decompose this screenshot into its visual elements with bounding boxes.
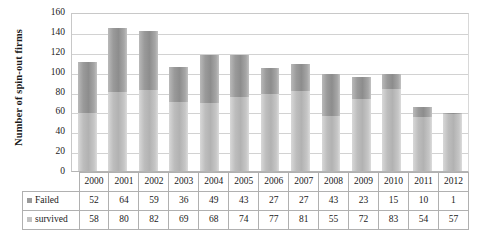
bar-slot xyxy=(438,14,468,171)
table-cell-value: 36 xyxy=(169,192,199,211)
table-header-year: 2004 xyxy=(199,173,229,192)
bar-stack xyxy=(443,113,462,171)
y-tick-label: 40 xyxy=(56,128,66,138)
legend-swatch-icon xyxy=(27,198,32,203)
table-cell-value: 68 xyxy=(199,211,229,230)
bar-segment-survived xyxy=(78,113,97,171)
table-cell-value: 83 xyxy=(379,211,409,230)
y-tick-label: 80 xyxy=(56,88,66,98)
table-header-year: 2000 xyxy=(79,173,109,192)
bar-segment-survived xyxy=(261,94,280,171)
bar-segment-survived xyxy=(382,89,401,171)
bar-stack xyxy=(352,77,371,171)
table-header-year: 2008 xyxy=(319,173,349,192)
bar-segment-failed xyxy=(200,55,219,104)
bar-segment-failed xyxy=(352,77,371,100)
table-header-year: 2001 xyxy=(109,173,139,192)
data-table-body: 2000200120022003200420052006200720082009… xyxy=(23,173,469,230)
y-axis-title: Number of spin-out firms xyxy=(0,0,36,175)
bar-segment-failed xyxy=(413,107,432,117)
bar-stack xyxy=(413,107,432,171)
bar-slot xyxy=(316,14,346,171)
bar-slot xyxy=(224,14,254,171)
table-cell-value: 43 xyxy=(319,192,349,211)
table-cell-value: 58 xyxy=(79,211,109,230)
bar-slot xyxy=(377,14,407,171)
table-header-year: 2012 xyxy=(438,173,468,192)
table-header-year: 2003 xyxy=(169,173,199,192)
table-cell-value: 27 xyxy=(259,192,289,211)
bar-slot xyxy=(346,14,376,171)
bar-segment-survived xyxy=(413,117,432,171)
bar-slot xyxy=(255,14,285,171)
bar-segment-failed xyxy=(169,67,188,103)
bar-slot xyxy=(407,14,437,171)
table-row-years: 2000200120022003200420052006200720082009… xyxy=(23,173,469,192)
bar-segment-failed xyxy=(230,55,249,98)
bar-slot xyxy=(102,14,132,171)
y-axis-tick-labels: 160140120100806040200 xyxy=(34,8,68,174)
table-cell-value: 10 xyxy=(408,192,438,211)
bar-segment-failed xyxy=(322,74,341,117)
y-tick-label: 120 xyxy=(51,48,65,58)
bar-segment-failed xyxy=(78,62,97,114)
y-tick-label: 160 xyxy=(51,8,65,18)
legend-swatch-icon xyxy=(27,217,32,222)
table-row-label: Failed xyxy=(23,192,80,211)
table-cell-value: 55 xyxy=(319,211,349,230)
bar-slot xyxy=(133,14,163,171)
plot-area xyxy=(71,13,469,172)
table-cell-value: 15 xyxy=(379,192,409,211)
bar-stack xyxy=(261,68,280,171)
bar-stack xyxy=(139,31,158,171)
bar-stack xyxy=(108,28,127,171)
y-tick-label: 20 xyxy=(56,147,66,157)
bar-stack xyxy=(322,74,341,171)
table-cell-value: 64 xyxy=(109,192,139,211)
bar-stack xyxy=(200,55,219,171)
table-cell-value: 54 xyxy=(408,211,438,230)
table-cell-value: 80 xyxy=(109,211,139,230)
table-cell-value: 43 xyxy=(229,192,259,211)
bar-segment-failed xyxy=(261,68,280,95)
bar-segment-survived xyxy=(291,91,310,171)
bar-stack xyxy=(230,55,249,171)
data-table: 2000200120022003200420052006200720082009… xyxy=(22,172,469,230)
bar-segment-failed xyxy=(139,31,158,90)
table-cell-value: 27 xyxy=(289,192,319,211)
bars-layer xyxy=(72,14,468,171)
table-header-year: 2009 xyxy=(349,173,379,192)
table-cell-value: 52 xyxy=(79,192,109,211)
bar-segment-survived xyxy=(230,97,249,171)
bar-segment-failed xyxy=(108,28,127,92)
table-row-label: survived xyxy=(23,211,80,230)
table-header-year: 2010 xyxy=(379,173,409,192)
legend-label-text: survived xyxy=(35,214,68,224)
bar-segment-survived xyxy=(443,114,462,171)
legend-label-text: Failed xyxy=(35,195,59,205)
bar-slot xyxy=(72,14,102,171)
bar-segment-failed xyxy=(382,74,401,89)
bar-segment-survived xyxy=(200,103,219,171)
bar-stack xyxy=(382,74,401,171)
bar-segment-survived xyxy=(352,99,371,171)
bar-stack xyxy=(78,62,97,171)
table-row: Failed5264593649432727432315101 xyxy=(23,192,469,211)
bar-slot xyxy=(163,14,193,171)
y-tick-label: 100 xyxy=(51,68,65,78)
table-header-year: 2006 xyxy=(259,173,289,192)
bar-slot xyxy=(285,14,315,171)
bar-stack xyxy=(291,64,310,171)
table-corner-cell xyxy=(23,173,80,192)
bar-stack xyxy=(169,67,188,171)
y-tick-label: 60 xyxy=(56,108,66,118)
stacked-column-chart: Number of spin-out firms 160140120100806… xyxy=(0,0,480,236)
table-cell-value: 49 xyxy=(199,192,229,211)
y-axis-title-text: Number of spin-out firms xyxy=(13,29,24,146)
table-cell-value: 69 xyxy=(169,211,199,230)
table-cell-value: 82 xyxy=(139,211,169,230)
bar-segment-survived xyxy=(108,92,127,172)
y-tick-label: 140 xyxy=(51,28,65,38)
table-cell-value: 81 xyxy=(289,211,319,230)
bar-segment-failed xyxy=(291,64,310,91)
